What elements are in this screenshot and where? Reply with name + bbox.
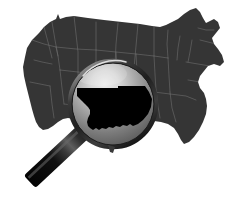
illustration-canvas: Magnifying glass over United States map … — [0, 0, 238, 217]
artboard: Magnifying glass over United States map … — [0, 0, 238, 217]
us-map-magnifier-illustration — [0, 0, 238, 217]
